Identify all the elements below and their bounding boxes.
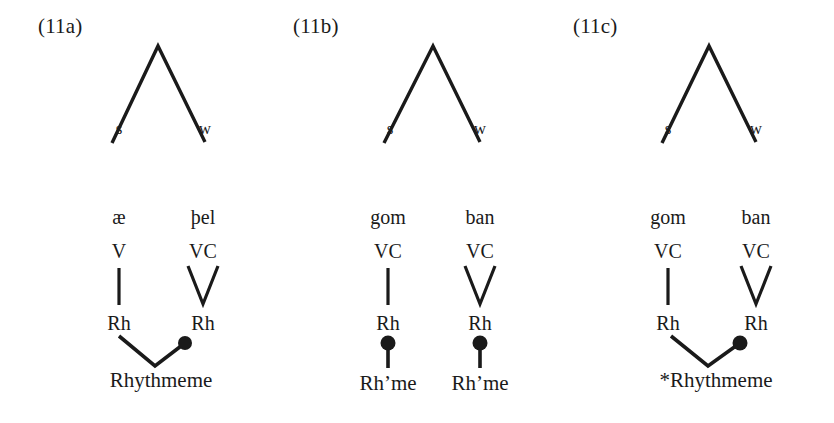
right-syllable-label-11c: ban bbox=[742, 207, 771, 227]
strong-node-label-11b: s bbox=[387, 120, 394, 137]
weak-node-label-11a: w bbox=[199, 120, 211, 137]
panel-11b-lines bbox=[278, 0, 556, 423]
left-syllable-label-11a: æ bbox=[112, 207, 125, 227]
sw-tree-branches-11c bbox=[662, 46, 756, 143]
right-vee-connector-11c bbox=[741, 266, 771, 304]
right-foot-dot-11b bbox=[473, 336, 488, 351]
left-rhyme-label-11b: Rh bbox=[376, 313, 399, 333]
left-syllable-label-11b: gom bbox=[370, 207, 406, 227]
sw-tree-branches-11a bbox=[112, 46, 205, 143]
panel-label-11c: (11c) bbox=[573, 14, 618, 39]
right-rhyme-label-11a: Rh bbox=[191, 313, 214, 333]
right-weight-label-11a: VC bbox=[189, 241, 217, 261]
right-weight-label-11b: VC bbox=[466, 241, 494, 261]
right-weight-label-11c: VC bbox=[742, 241, 770, 261]
weak-node-label-11b: w bbox=[474, 120, 486, 137]
right-syllable-label-11b: ban bbox=[466, 207, 495, 227]
panel-label-11a: (11a) bbox=[38, 14, 83, 39]
panel-11c: (11c) s w gom ban VC VC Rh Rh *Rhythmeme bbox=[556, 0, 834, 423]
left-foot-dot-11b bbox=[381, 336, 396, 351]
panel-11a-lines bbox=[0, 0, 278, 423]
foot-dot-11c bbox=[733, 336, 748, 351]
sw-tree-branches-11b bbox=[384, 46, 480, 143]
panel-11a: (11a) s w æ þel V VC Rh Rh Rhythmeme bbox=[0, 0, 278, 423]
right-rhyme-label-11c: Rh bbox=[744, 313, 767, 333]
foot-dot-11a bbox=[178, 336, 192, 350]
left-foot-label-11b: Rh’me bbox=[359, 373, 416, 394]
right-foot-label-11b: Rh’me bbox=[451, 373, 508, 394]
figure-container: (11a) s w æ þel V VC Rh Rh Rhythmeme (11… bbox=[0, 0, 834, 423]
left-weight-label-11b: VC bbox=[374, 241, 402, 261]
strong-node-label-11a: s bbox=[116, 120, 123, 137]
right-vee-connector-11b bbox=[465, 266, 495, 304]
panel-11c-lines bbox=[556, 0, 834, 423]
left-weight-label-11c: VC bbox=[654, 241, 682, 261]
foot-connector-11c bbox=[671, 336, 740, 366]
right-rhyme-label-11b: Rh bbox=[468, 313, 491, 333]
panel-label-11b: (11b) bbox=[293, 14, 339, 39]
weak-node-label-11c: w bbox=[750, 120, 762, 137]
left-rhyme-label-11a: Rh bbox=[107, 313, 130, 333]
strong-node-label-11c: s bbox=[665, 120, 672, 137]
foot-label-11a: Rhythmeme bbox=[110, 370, 213, 391]
right-syllable-label-11a: þel bbox=[191, 207, 215, 227]
panel-11b: (11b) s w gom ban VC VC Rh Rh Rh’me Rh’m… bbox=[278, 0, 556, 423]
left-rhyme-label-11c: Rh bbox=[656, 313, 679, 333]
right-vee-connector-11a bbox=[188, 266, 218, 304]
foot-label-11c: *Rhythmeme bbox=[659, 370, 772, 391]
left-syllable-label-11c: gom bbox=[650, 207, 686, 227]
foot-connector-11a bbox=[119, 336, 185, 366]
left-weight-label-11a: V bbox=[112, 241, 126, 261]
